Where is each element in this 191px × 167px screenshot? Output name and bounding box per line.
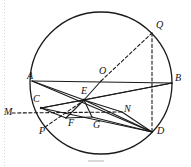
- point-label-P: P: [39, 126, 45, 136]
- point-C-marker: [40, 107, 42, 109]
- point-label-F: F: [68, 118, 74, 128]
- point-label-D: D: [157, 126, 164, 136]
- point-label-Q: Q: [156, 20, 163, 30]
- point-label-A: A: [27, 71, 33, 81]
- point-label-M: M: [4, 107, 12, 117]
- caption-artifact: [88, 160, 104, 162]
- point-label-O: O: [99, 66, 106, 76]
- point-label-B: B: [175, 73, 181, 83]
- point-label-E: E: [81, 86, 87, 96]
- segment-AB: [32, 81, 172, 83]
- point-label-G: G: [93, 120, 100, 130]
- point-label-N: N: [124, 104, 131, 114]
- page-edge-artifact: [4, 0, 5, 167]
- segment-OQ-dashed: [101, 33, 152, 81]
- point-label-C: C: [33, 94, 40, 104]
- solid-chords: [32, 81, 172, 132]
- point-E-marker: [82, 98, 85, 101]
